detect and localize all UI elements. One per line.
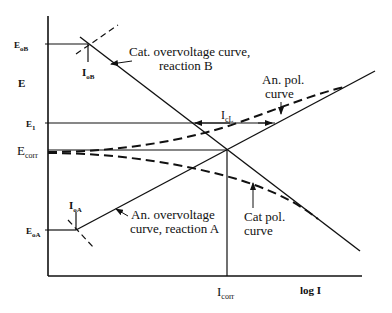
an-overvoltage-annotation: An. overvoltage curve, reaction A: [130, 208, 219, 236]
y-axis-label: E: [18, 76, 25, 90]
e0a-label: EoA: [26, 224, 41, 238]
an-pol-annotation: An. pol. curve: [262, 73, 304, 101]
cat-overvoltage-annotation: Cat. overvoltage curve, reaction B: [129, 45, 250, 73]
a-tangent: [68, 220, 94, 248]
icl-label: IcL: [221, 108, 233, 122]
e0b-label: EoB: [14, 38, 28, 52]
icorr-label: Icorr: [217, 285, 234, 299]
i0a-label: IoA: [69, 198, 82, 212]
x-axis-label: log I: [300, 283, 321, 297]
ecorr-label: Ecorr: [17, 144, 38, 158]
cat-pol-annotation: Cat pol. curve: [244, 210, 285, 238]
e1-label: E1: [26, 117, 36, 131]
i0b-label: IoB: [82, 65, 94, 79]
